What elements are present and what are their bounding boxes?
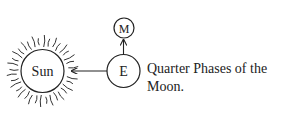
sun-ray <box>11 78 19 80</box>
sun-ray <box>48 39 50 47</box>
sun-ray <box>27 42 31 50</box>
sun-ray <box>67 81 73 84</box>
sun-ray <box>40 95 41 107</box>
sun-ray <box>21 42 27 50</box>
moon-phase-diagram: Sun E M <box>0 0 287 116</box>
sun-ray <box>53 38 57 47</box>
sun-ray <box>12 58 18 61</box>
sun-ray <box>61 88 67 93</box>
caption-line-2: Moon. <box>147 78 287 96</box>
sun-ray <box>60 45 68 53</box>
sun-ray <box>10 69 19 70</box>
sun-ray <box>7 74 17 76</box>
sun-ray <box>67 77 78 79</box>
sun-ray <box>56 43 61 51</box>
caption-line-1: Quarter Phases of the <box>147 60 287 78</box>
sun-ray <box>18 49 24 54</box>
sun-ray <box>64 55 75 61</box>
sun-ray <box>68 67 78 69</box>
sun-ray <box>63 51 69 55</box>
sun-ray <box>58 92 64 100</box>
sun-ray <box>7 63 18 65</box>
diagram-caption: Quarter Phases of the Moon. <box>147 60 287 96</box>
sun-label: Sun <box>32 64 54 79</box>
sun-ray <box>44 35 45 47</box>
sun-ray <box>29 95 33 104</box>
sun-ray <box>18 89 26 97</box>
sun-ray <box>50 95 53 106</box>
sun-ray <box>32 37 35 48</box>
sun-ray <box>11 82 22 88</box>
sun-ray <box>16 87 22 91</box>
earth-label: E <box>119 64 128 79</box>
sun-ray <box>35 95 37 103</box>
moon-label: M <box>119 22 130 36</box>
sun-ray <box>38 38 39 45</box>
moon: M <box>114 18 134 38</box>
sun: Sun <box>21 50 64 93</box>
earth: E <box>107 55 140 88</box>
sun-ray <box>66 61 74 63</box>
sun-ray <box>25 91 30 99</box>
sun-ray <box>53 92 57 100</box>
sun-ray <box>46 97 47 104</box>
